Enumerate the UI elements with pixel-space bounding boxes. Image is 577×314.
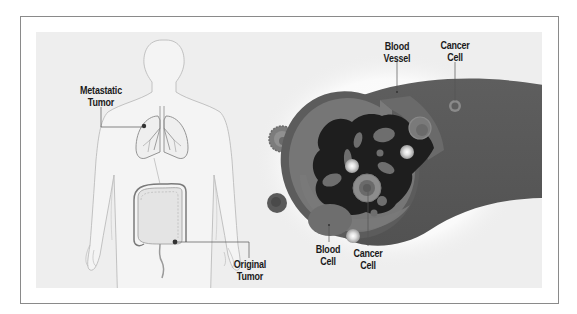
- label-blood-vessel: Blood Vessel: [378, 40, 415, 64]
- label-blood-cell: Blood Cell: [309, 243, 346, 267]
- label-cancer-cell-bottom: Cancer Cell: [349, 247, 386, 271]
- exiting-blood-cell: [308, 204, 352, 236]
- metastatic-tumor-dot: [142, 124, 146, 128]
- lumen-cancer-cell-large: [353, 174, 381, 202]
- metastasis-illustration: [0, 0, 577, 314]
- original-tumor-dot: [173, 240, 178, 245]
- label-original-tumor: Original Tumor: [228, 258, 272, 282]
- floating-blood-cell: [267, 193, 287, 213]
- label-cancer-cell-top: Cancer Cell: [436, 39, 473, 63]
- vessel-surface-cancer-cell: [449, 100, 461, 112]
- glowing-cell-bottom: [346, 229, 360, 243]
- glowing-cell-right: [400, 145, 414, 159]
- label-metastatic-tumor: Metastatic Tumor: [75, 84, 128, 108]
- lumen-cancer-cell-right: [409, 117, 431, 139]
- glowing-cell-left: [345, 159, 359, 173]
